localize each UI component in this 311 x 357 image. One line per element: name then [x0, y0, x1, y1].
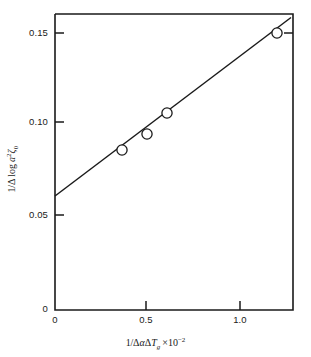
- x-tick-label-1.0: 1.0: [226, 315, 254, 325]
- y-title-a: a: [6, 157, 17, 162]
- figure-container: 0.15 0.10 0.05 0 0 0.5 1.0 1/ΔαΔTg×10−2 …: [0, 0, 311, 357]
- data-point: [117, 145, 127, 155]
- y-title-prefix: 1/: [6, 185, 17, 192]
- data-markers: [117, 28, 282, 155]
- data-point: [162, 108, 172, 118]
- y-title-zeta-subscript: 0: [12, 146, 20, 150]
- y-title-log: log: [6, 164, 17, 177]
- data-point: [142, 129, 152, 139]
- y-title-delta: Δ: [6, 179, 17, 185]
- x-tick-label-0: 0: [43, 315, 67, 325]
- y-axis-ticks: [55, 33, 64, 215]
- y-title-a-superscript: 2: [5, 153, 13, 157]
- x-axis-ticks: [146, 301, 240, 310]
- x-title-exponent: −2: [178, 336, 185, 344]
- y-axis-title: 1/Δloga2ζ0: [6, 104, 20, 234]
- x-axis-title: 1/ΔαΔTg×10−2: [0, 337, 311, 351]
- y-tick-label-0: 0: [0, 304, 48, 314]
- x-title-T-subscript: g: [157, 343, 161, 351]
- x-tick-label-0.5: 0.5: [132, 315, 160, 325]
- fit-line: [55, 18, 291, 197]
- x-title-prefix: 1/: [126, 337, 133, 348]
- axis-frame: [55, 14, 293, 310]
- x-title-base: 10: [168, 337, 178, 348]
- y-title-zeta: ζ: [6, 149, 17, 153]
- data-point: [272, 28, 282, 38]
- y-tick-label-0.15: 0.15: [0, 28, 48, 38]
